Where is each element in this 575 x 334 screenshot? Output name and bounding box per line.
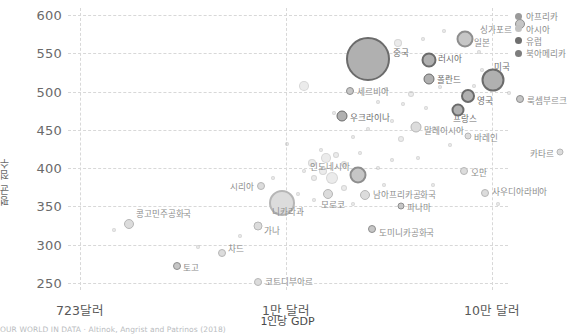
data-point[interactable] bbox=[285, 142, 289, 146]
data-point-label: 코트디부아르 bbox=[265, 275, 312, 287]
data-point-세르비아[interactable] bbox=[346, 87, 354, 95]
data-point-사우디아라비아[interactable] bbox=[481, 189, 489, 197]
data-point[interactable] bbox=[448, 143, 452, 147]
data-point[interactable] bbox=[507, 91, 511, 95]
data-point[interactable] bbox=[358, 151, 362, 155]
data-point-일본[interactable] bbox=[457, 31, 474, 48]
y-axis-tick: 400 bbox=[4, 161, 62, 176]
gridline-vertical bbox=[80, 8, 81, 290]
data-point-파나마[interactable] bbox=[398, 203, 405, 210]
gridline-horizontal bbox=[68, 92, 508, 93]
data-point-카타르[interactable] bbox=[557, 149, 564, 156]
legend-dot-icon bbox=[515, 13, 522, 20]
gridline-horizontal bbox=[68, 168, 508, 169]
y-axis-tick: 600 bbox=[4, 8, 62, 23]
data-point[interactable] bbox=[332, 111, 336, 115]
data-point[interactable] bbox=[112, 228, 116, 232]
data-point-인도네시아[interactable] bbox=[350, 167, 367, 184]
data-point[interactable] bbox=[442, 29, 446, 33]
data-point-중국[interactable] bbox=[346, 37, 390, 81]
data-point-도미니카공화국[interactable] bbox=[368, 225, 376, 233]
legend-dot-icon bbox=[515, 37, 522, 44]
y-axis-tick: 500 bbox=[4, 84, 62, 99]
data-point[interactable] bbox=[326, 172, 338, 184]
data-point-label: 룩셈부르크 bbox=[527, 94, 567, 106]
legend: 아프리카아시아유럽북아메리카 bbox=[515, 10, 566, 60]
y-axis-tick: 350 bbox=[4, 199, 62, 214]
data-point-코트디부아르[interactable] bbox=[254, 278, 262, 286]
data-point-콩고민주공화국[interactable] bbox=[124, 219, 134, 229]
data-point[interactable] bbox=[408, 91, 414, 97]
data-point[interactable] bbox=[438, 85, 442, 89]
legend-label: 유럽 bbox=[526, 35, 542, 47]
data-point-label: 중국 bbox=[393, 46, 409, 58]
data-point-우크라이나[interactable] bbox=[337, 111, 348, 122]
data-point-label: 오만 bbox=[471, 166, 487, 178]
data-point[interactable] bbox=[431, 183, 435, 187]
data-point[interactable] bbox=[398, 136, 404, 142]
legend-item-유럽[interactable]: 유럽 bbox=[515, 35, 566, 47]
data-point-시리아[interactable] bbox=[257, 182, 265, 190]
data-point[interactable] bbox=[472, 84, 476, 88]
data-point-label: 우크라이나 bbox=[350, 111, 390, 123]
data-point[interactable] bbox=[421, 37, 425, 41]
data-point-러시아[interactable] bbox=[422, 53, 437, 68]
data-point-label: 세르비아 bbox=[357, 85, 389, 97]
data-point[interactable] bbox=[351, 202, 355, 206]
data-point-오만[interactable] bbox=[460, 167, 468, 175]
data-point[interactable] bbox=[496, 202, 500, 206]
legend-item-아프리카[interactable]: 아프리카 bbox=[515, 10, 566, 22]
data-point[interactable] bbox=[341, 185, 347, 191]
data-point[interactable] bbox=[366, 127, 370, 131]
legend-item-북아메리카[interactable]: 북아메리카 bbox=[515, 47, 566, 59]
data-point-영국[interactable] bbox=[461, 89, 475, 103]
y-axis-tick: 300 bbox=[4, 237, 62, 252]
data-point[interactable] bbox=[477, 50, 481, 54]
data-point[interactable] bbox=[238, 234, 242, 238]
data-point-label: 시리아 bbox=[230, 180, 254, 192]
data-point[interactable] bbox=[299, 81, 309, 91]
data-point[interactable] bbox=[319, 148, 323, 152]
data-point-가나[interactable] bbox=[254, 222, 263, 231]
data-point[interactable] bbox=[390, 158, 394, 162]
data-point[interactable] bbox=[376, 166, 380, 170]
data-point[interactable] bbox=[424, 106, 428, 110]
legend-item-아시아[interactable]: 아시아 bbox=[515, 22, 566, 34]
data-point-label: 남아프리카공화국 bbox=[373, 188, 436, 200]
plot-area: 600550500450400350300250723달러1만 달러10만 달러… bbox=[68, 8, 508, 290]
data-point-label: 가나 bbox=[264, 224, 280, 236]
data-point-label: 일본 bbox=[474, 36, 490, 48]
data-point-토고[interactable] bbox=[173, 262, 181, 270]
data-point-룩셈부르크[interactable] bbox=[516, 95, 524, 103]
data-point-label: 러시아 bbox=[438, 52, 462, 64]
data-point[interactable] bbox=[351, 135, 355, 139]
data-point-남아프리카공화국[interactable] bbox=[360, 190, 370, 200]
data-point-폴란드[interactable] bbox=[424, 74, 435, 85]
data-point-말레이시아[interactable] bbox=[411, 122, 422, 133]
data-point[interactable] bbox=[312, 198, 316, 202]
data-point-차드[interactable] bbox=[218, 249, 226, 257]
data-point[interactable] bbox=[333, 152, 339, 158]
data-point-label: 미국 bbox=[494, 60, 510, 72]
y-axis-tick: 450 bbox=[4, 122, 62, 137]
gridline-horizontal bbox=[68, 245, 508, 246]
data-point-바레인[interactable] bbox=[465, 133, 472, 140]
data-point[interactable] bbox=[296, 192, 300, 196]
data-point[interactable] bbox=[376, 100, 380, 104]
data-point[interactable] bbox=[302, 169, 306, 173]
data-point[interactable] bbox=[401, 102, 405, 106]
y-axis-tick: 550 bbox=[4, 46, 62, 61]
data-point-label: 카타르 bbox=[530, 147, 554, 159]
data-point-label: 니카라과 bbox=[272, 205, 304, 217]
data-point-label: 영국 bbox=[477, 94, 493, 106]
data-point-label: 콩고민주공화국 bbox=[136, 207, 191, 219]
source-caption: OUR WORLD IN DATA · Altinok, Angrist and… bbox=[0, 325, 226, 334]
data-point[interactable] bbox=[271, 176, 275, 180]
data-point[interactable] bbox=[196, 245, 200, 249]
data-point[interactable] bbox=[311, 175, 317, 181]
data-point[interactable] bbox=[382, 183, 386, 187]
data-point[interactable] bbox=[416, 156, 420, 160]
data-point[interactable] bbox=[390, 119, 394, 123]
data-point-label: 파나마 bbox=[407, 201, 431, 213]
data-point-label: 인도네시아 bbox=[310, 160, 350, 172]
